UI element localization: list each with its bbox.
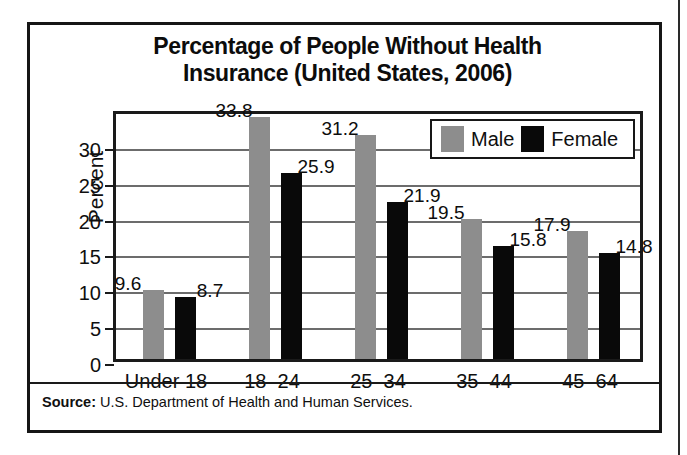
y-axis-tick [105,364,114,366]
y-axis-tick [105,328,114,330]
bar-value-label: 8.7 [197,281,223,300]
chart-title-line-2: Insurance (United States, 2006) [60,60,635,87]
y-axis-tick-label: 30 [79,140,101,160]
y-axis-tick-label: 25 [79,176,101,196]
y-axis-tick-label: 20 [79,212,101,232]
x-axis-tick-label: 25–34 [350,370,406,392]
chart-legend: Male Female [430,119,635,159]
x-axis-tick-label: 35–44 [456,370,512,392]
source-note: Source: U.S. Department of Health and Hu… [42,393,413,411]
bar-value-label: 19.5 [428,203,465,222]
bar-female [281,173,302,359]
bar-female [493,246,514,359]
x-axis-tick-label: 45–64 [562,370,618,392]
bar-value-label: 31.2 [322,119,359,138]
y-axis-tick [105,185,114,187]
bar-female [387,202,408,359]
y-axis-tick-label: 5 [90,319,101,339]
y-axis-tick [105,221,114,223]
bar-male [355,135,376,359]
y-axis-tick-label: 0 [90,355,101,375]
legend-label-female: Female [551,129,618,149]
bar-value-label: 9.6 [115,274,141,293]
y-axis-tick-label: 15 [79,247,101,267]
y-axis-tick [105,256,114,258]
bar-female [599,253,620,359]
source-divider [30,382,659,384]
y-axis-tick-label: 10 [79,283,101,303]
bar-value-label: 17.9 [534,215,571,234]
y-axis-tick [105,292,114,294]
bar-value-label: 33.8 [216,101,253,120]
bar-male [249,117,270,359]
legend-item-male: Male [441,126,514,152]
source-text: U.S. Department of Health and Human Serv… [100,394,413,410]
y-axis-tick [105,149,114,151]
chart-title: Percentage of People Without Health Insu… [60,33,635,87]
legend-label-male: Male [471,129,514,149]
x-axis-tick-label: 18–24 [244,370,300,392]
legend-swatch-female-icon [521,126,544,152]
bar-value-label: 25.9 [298,157,335,176]
bar-male [143,290,164,359]
x-axis-tick-label: Under 18 [125,370,207,392]
bar-value-label: 14.8 [616,237,653,256]
source-label: Source: [42,394,96,410]
page-edge-rule [678,0,680,455]
bar-male [567,231,588,359]
bar-male [461,219,482,359]
legend-item-female: Female [521,126,618,152]
figure-border-box: Percentage of People Without Health Insu… [27,22,662,433]
legend-swatch-male-icon [441,126,464,152]
bar-female [175,297,196,359]
chart-title-line-1: Percentage of People Without Health [60,33,635,60]
figure-root: Percentage of People Without Health Insu… [0,0,687,455]
